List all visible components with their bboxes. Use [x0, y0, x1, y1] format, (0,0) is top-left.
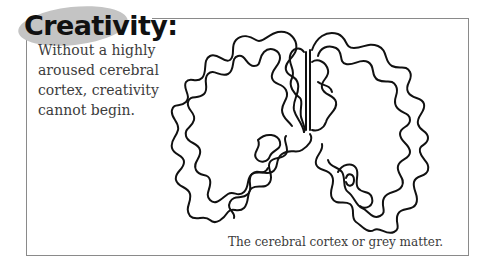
intro-text: Without a highly aroused cerebral cortex…: [38, 40, 158, 120]
intro-line: cannot begin.: [38, 100, 158, 120]
figure-caption: The cerebral cortex or grey matter.: [228, 235, 443, 249]
frame-left-border: [26, 40, 27, 256]
intro-line: aroused cerebral: [38, 60, 158, 80]
page-title: Creativity:: [24, 10, 177, 42]
frame-bottom-border: [26, 255, 469, 256]
frame-top-border: [152, 18, 469, 19]
brain-coronal-section-icon: [170, 22, 440, 237]
intro-line: Without a highly: [38, 40, 158, 60]
intro-line: cortex, creativity: [38, 80, 158, 100]
frame-right-border: [468, 18, 469, 256]
